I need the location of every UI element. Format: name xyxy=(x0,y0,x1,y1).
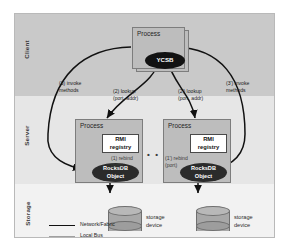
cylinder-top-1 xyxy=(108,206,142,216)
ycsb-node: YCSB xyxy=(145,52,185,69)
edge-label-invoke-right-line1: (3') invoke xyxy=(226,80,249,87)
legend-label-network: Network/Fabric xyxy=(80,221,115,227)
edge-label-invoke-left-line1: (3) invoke xyxy=(59,80,81,87)
tier-band-server xyxy=(15,96,274,184)
edge-label-lookup-left-line2: (port, addr) xyxy=(113,95,138,102)
rocksdb-object-line2-2: Object xyxy=(191,173,216,180)
storage-device-caption-1-line2: device xyxy=(146,222,165,230)
cylinder-top-2 xyxy=(196,206,230,216)
rmi-registry-line2-1: registry xyxy=(110,144,131,152)
storage-device-caption-2: storage device xyxy=(234,214,253,229)
edge-label-rebind-right: (1') rebind (port) xyxy=(165,155,188,169)
storage-device-cylinder-1 xyxy=(108,206,142,234)
edge-label-invoke-right-line2: methods xyxy=(226,87,249,94)
legend-swatch-local-bus-line xyxy=(49,236,75,237)
edge-label-invoke-right: (3') invoke methods xyxy=(226,80,249,94)
diagram-frame: Client Server Storage xyxy=(14,13,275,238)
edge-label-lookup-left-line1: (2) lookup xyxy=(113,88,138,95)
edge-label-invoke-left-line2: methods xyxy=(59,87,81,94)
edge-label-rebind-right-line2: (port) xyxy=(165,162,188,169)
tier-band-storage xyxy=(15,184,274,238)
edge-label-lookup-right: (2') lookup (port, addr) xyxy=(178,88,203,102)
edge-label-rebind-left-line2: (port) xyxy=(111,162,133,169)
rmi-registry-line1-1: RMI xyxy=(115,136,126,144)
rocksdb-object-line1-2: RocksDB xyxy=(191,165,216,172)
legend-swatch-network-line xyxy=(49,225,75,226)
tier-label-server-text: Server xyxy=(23,125,30,145)
edge-label-invoke-left: (3) invoke methods xyxy=(59,80,81,94)
rocksdb-object-line2-1: Object xyxy=(103,173,128,180)
storage-device-caption-1-line1: storage xyxy=(146,214,165,222)
edge-label-rebind-right-line1: (1') rebind xyxy=(165,155,188,162)
storage-device-caption-2-line2: device xyxy=(234,222,253,230)
edge-label-lookup-right-line2: (port, addr) xyxy=(178,95,203,102)
server-process-label-1: Process xyxy=(80,122,103,129)
storage-device-cylinder-2 xyxy=(196,206,230,234)
client-process-label: Process xyxy=(137,30,160,37)
edge-label-rebind-left: (1) rebind (port) xyxy=(111,155,133,169)
rmi-registry-box-1: RMI registry xyxy=(102,134,139,153)
tier-label-client: Client xyxy=(15,46,37,53)
tier-label-client-text: Client xyxy=(22,40,29,58)
tier-label-storage: Storage xyxy=(15,210,37,217)
rmi-registry-line1-2: RMI xyxy=(203,136,214,144)
server-process-label-2: Process xyxy=(168,122,191,129)
ycsb-node-label: YCSB xyxy=(156,56,173,64)
edge-label-lookup-left: (2) lookup (port, addr) xyxy=(113,88,138,102)
storage-device-caption-1: storage device xyxy=(146,214,165,229)
tier-label-server: Server xyxy=(15,132,37,139)
storage-device-caption-2-line1: storage xyxy=(234,214,253,222)
tier-label-storage-text: Storage xyxy=(24,201,31,225)
edge-label-lookup-right-line1: (2') lookup xyxy=(178,88,203,95)
legend-label-local-bus: Local Bus xyxy=(80,232,103,238)
architecture-diagram: Client Server Storage xyxy=(0,0,297,251)
rmi-registry-line2-2: registry xyxy=(198,144,219,152)
cylinder-bottom-2 xyxy=(196,221,230,231)
rmi-registry-box-2: RMI registry xyxy=(190,134,227,153)
edge-label-rebind-left-line1: (1) rebind xyxy=(111,155,133,162)
